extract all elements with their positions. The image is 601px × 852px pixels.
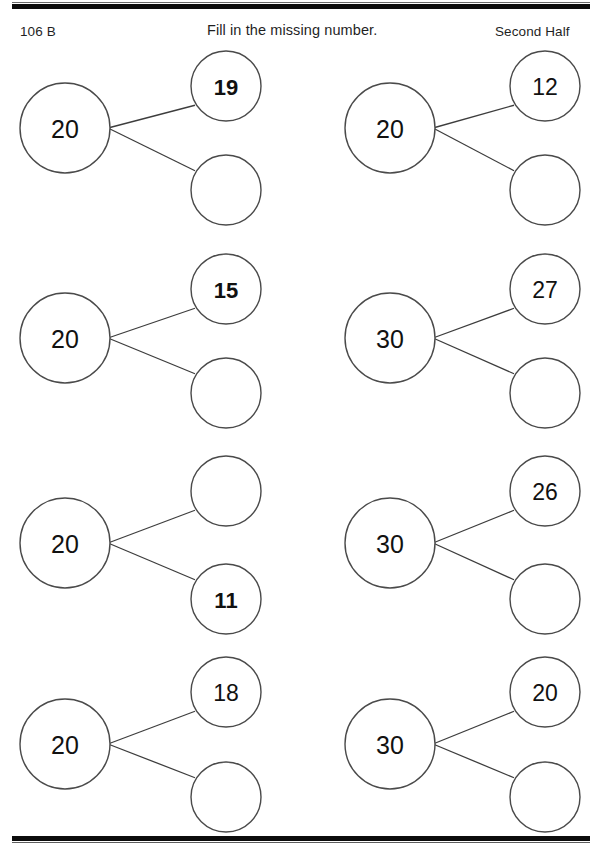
part-circle-top-5[interactable] bbox=[191, 456, 261, 526]
number-bond-4: 3027 bbox=[345, 254, 580, 428]
number-bond-grid: 20192012201530272011302620183020 bbox=[0, 0, 601, 852]
bond-branch-bottom-7 bbox=[108, 744, 195, 778]
bond-branch-top-3 bbox=[108, 308, 195, 338]
bond-branch-top-6 bbox=[433, 510, 514, 543]
bond-branch-top-2 bbox=[433, 105, 514, 128]
part-value-top-8: 20 bbox=[532, 680, 558, 706]
bond-branch-bottom-8 bbox=[433, 744, 514, 778]
number-bond-8: 3020 bbox=[345, 657, 580, 832]
number-bond-3: 2015 bbox=[20, 254, 261, 428]
number-bond-2: 2012 bbox=[345, 51, 580, 225]
bond-branch-bottom-3 bbox=[108, 338, 195, 374]
bond-branch-top-5 bbox=[108, 510, 195, 543]
number-bond-5: 2011 bbox=[20, 456, 261, 634]
whole-value-2: 20 bbox=[376, 115, 404, 143]
whole-value-7: 20 bbox=[51, 731, 79, 759]
whole-value-5: 20 bbox=[51, 530, 79, 558]
part-circle-bottom-3[interactable] bbox=[191, 358, 261, 428]
number-bond-6: 3026 bbox=[345, 456, 580, 634]
whole-value-4: 30 bbox=[376, 325, 404, 353]
part-circle-bottom-8[interactable] bbox=[510, 762, 580, 832]
part-value-top-7: 18 bbox=[213, 680, 239, 706]
whole-value-8: 30 bbox=[376, 731, 404, 759]
bond-branch-top-4 bbox=[433, 308, 514, 338]
part-value-top-4: 27 bbox=[532, 277, 558, 303]
part-circle-bottom-4[interactable] bbox=[510, 358, 580, 428]
part-value-bottom-5: 11 bbox=[214, 588, 237, 613]
bond-branch-bottom-4 bbox=[433, 338, 514, 374]
part-circle-bottom-6[interactable] bbox=[510, 564, 580, 634]
bond-branch-top-1 bbox=[108, 105, 195, 128]
part-value-top-2: 12 bbox=[532, 74, 558, 100]
part-circle-bottom-1[interactable] bbox=[191, 155, 261, 225]
bottom-rule bbox=[12, 836, 590, 843]
bond-branch-bottom-5 bbox=[108, 543, 195, 580]
whole-value-3: 20 bbox=[51, 325, 79, 353]
part-value-top-3: 15 bbox=[214, 278, 238, 303]
number-bond-7: 2018 bbox=[20, 657, 261, 832]
bond-branch-top-8 bbox=[433, 711, 514, 744]
bottom-rule-thick bbox=[12, 836, 590, 841]
part-value-top-1: 19 bbox=[214, 75, 238, 100]
bond-branch-bottom-1 bbox=[108, 128, 195, 171]
part-circle-bottom-7[interactable] bbox=[191, 762, 261, 832]
number-bond-1: 2019 bbox=[20, 51, 261, 225]
whole-value-6: 30 bbox=[376, 530, 404, 558]
bond-branch-top-7 bbox=[108, 711, 195, 744]
bond-branch-bottom-2 bbox=[433, 128, 514, 171]
bottom-rule-hairline bbox=[12, 842, 590, 843]
bond-branch-bottom-6 bbox=[433, 543, 514, 580]
part-value-top-6: 26 bbox=[532, 479, 558, 505]
whole-value-1: 20 bbox=[51, 115, 79, 143]
part-circle-bottom-2[interactable] bbox=[510, 155, 580, 225]
